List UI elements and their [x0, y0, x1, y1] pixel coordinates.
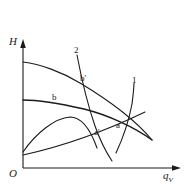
curve-resistance-upper: [23, 117, 97, 152]
curve-label-a-prime: a': [94, 128, 100, 137]
curve-label-2: 2: [74, 46, 79, 55]
origin-label: O: [9, 168, 17, 179]
y-axis-arrow-icon: [20, 39, 26, 48]
plot-canvas: [0, 0, 190, 189]
curve-label-b-prime: b': [80, 74, 86, 83]
curve-label-b: b: [52, 93, 57, 102]
x-axis-label: qV: [163, 170, 173, 184]
curve-resistance-lower: [23, 112, 145, 155]
y-axis-label: H: [9, 36, 17, 47]
pump-characteristic-figure: H O qV 2 b' 1 b a a': [0, 0, 190, 189]
x-axis-label-subscript: V: [169, 176, 173, 184]
curve-label-1: 1: [132, 76, 137, 85]
x-axis-arrow-icon: [172, 165, 181, 171]
curve-label-a: a: [116, 121, 120, 130]
